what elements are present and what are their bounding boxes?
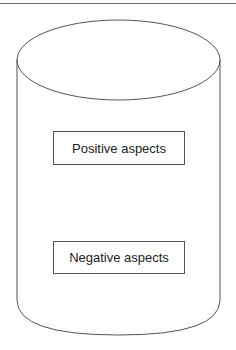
positive-aspects-label: Positive aspects [72,141,166,156]
negative-aspects-box: Negative aspects [53,241,185,274]
negative-aspects-label: Negative aspects [69,250,169,265]
cylinder-bottom-arc [17,300,220,335]
cylinder-shape [0,0,236,350]
cylinder-top-ellipse [17,20,220,100]
positive-aspects-box: Positive aspects [53,131,185,165]
